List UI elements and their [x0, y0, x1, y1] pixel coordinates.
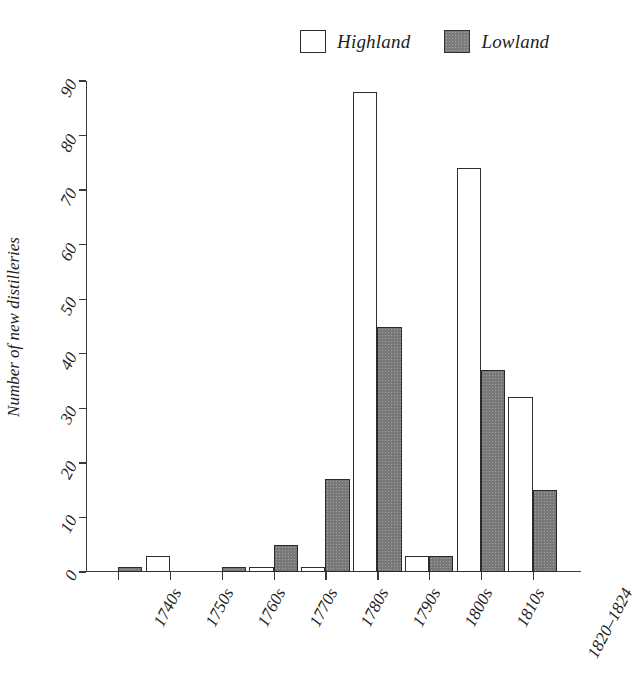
y-tick-label-80: 80	[56, 131, 82, 155]
legend-label-highland: Highland	[337, 31, 410, 53]
y-tick-mark	[79, 462, 86, 463]
y-tick-mark	[79, 571, 86, 572]
plot-area: Number of new distilleries 0102030405060…	[86, 81, 581, 572]
bar-highland-1800s	[405, 556, 429, 572]
x-tick-label-1740s: 1740s	[150, 585, 187, 630]
y-tick-mark	[79, 135, 86, 136]
bar-highland-1810s	[457, 168, 481, 572]
bar-highland-1780s	[301, 567, 325, 572]
y-axis-line	[86, 81, 87, 572]
legend-label-lowland: Lowland	[481, 31, 549, 53]
legend-item-lowland: Lowland	[444, 30, 549, 53]
x-tick-mark	[429, 572, 430, 580]
legend-swatch-highland	[300, 30, 326, 53]
y-tick-mark	[79, 353, 86, 354]
y-tick-mark	[79, 80, 86, 81]
x-tick-label-1750s: 1750s	[202, 585, 239, 630]
x-tick-label-1780s: 1780s	[357, 585, 394, 630]
bar-lowland-1740s	[118, 567, 142, 572]
bar-lowland-1790s	[377, 327, 401, 573]
x-tick-mark	[481, 572, 482, 580]
legend-item-highland: Highland	[300, 30, 410, 53]
x-tick-label-1810s: 1810s	[513, 585, 550, 630]
bar-highland-1770s	[249, 567, 273, 572]
y-tick-mark	[79, 189, 86, 190]
y-tick-label-30: 30	[56, 404, 82, 428]
bar-highland-1790s	[353, 92, 377, 572]
bar-lowland-1770s	[274, 545, 298, 572]
y-tick-label-90: 90	[56, 76, 82, 100]
x-tick-mark	[533, 572, 534, 580]
bar-lowland-1800s	[429, 556, 453, 572]
x-tick-mark	[170, 572, 171, 580]
y-axis-title: Number of new distilleries	[4, 237, 24, 417]
x-tick-mark	[118, 572, 119, 580]
x-tick-label-1800s: 1800s	[461, 585, 498, 630]
y-tick-label-20: 20	[56, 458, 82, 482]
legend-swatch-lowland	[444, 30, 470, 53]
y-tick-mark	[79, 299, 86, 300]
y-tick-label-50: 50	[56, 295, 82, 319]
x-tick-label-1770s: 1770s	[305, 585, 342, 630]
y-tick-label-70: 70	[56, 185, 82, 209]
bar-highland-1750s	[146, 556, 170, 572]
bar-lowland-18201824	[533, 490, 557, 572]
x-tick-label-1760s: 1760s	[253, 585, 290, 630]
bar-highland-18201824	[508, 397, 532, 572]
bar-lowland-1810s	[481, 370, 505, 572]
y-tick-label-60: 60	[56, 240, 82, 264]
x-tick-mark	[274, 572, 275, 580]
y-tick-label-0: 0	[60, 567, 82, 584]
y-tick-mark	[79, 408, 86, 409]
y-tick-label-40: 40	[56, 349, 82, 373]
x-tick-mark	[377, 572, 378, 580]
y-tick-label-10: 10	[56, 513, 82, 537]
x-tick-label-1790s: 1790s	[409, 585, 446, 630]
y-tick-mark	[79, 244, 86, 245]
x-tick-mark	[325, 572, 326, 580]
chart-legend: Highland Lowland	[300, 30, 549, 53]
x-tick-label-18201824: 1820–1824	[583, 585, 636, 662]
x-tick-mark	[222, 572, 223, 580]
bar-lowland-1780s	[325, 479, 349, 572]
bar-lowland-1760s	[222, 567, 246, 572]
y-tick-mark	[79, 517, 86, 518]
